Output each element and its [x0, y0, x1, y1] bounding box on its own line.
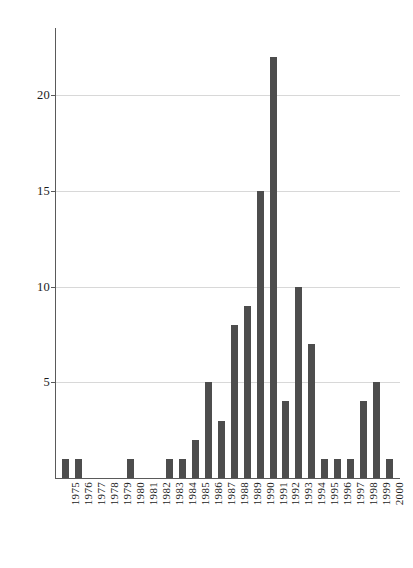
y-tick-label-10: 10: [4, 281, 50, 294]
bar-1997: [347, 459, 354, 478]
x-tick-label-1995: 1995: [329, 482, 340, 505]
bar-chart: 5101520 19751976197719781979198019811982…: [0, 0, 413, 568]
x-tick-label-1998: 1998: [368, 482, 379, 505]
bar-1976: [75, 459, 82, 478]
bar-1998: [360, 401, 367, 478]
bar-1986: [205, 382, 212, 478]
bar-1995: [321, 459, 328, 478]
bar-1988: [231, 325, 238, 478]
x-tick-label-1977: 1977: [96, 482, 107, 505]
x-tick-label-1993: 1993: [303, 482, 314, 505]
x-tick-label-1982: 1982: [161, 482, 172, 505]
x-tick-label-1988: 1988: [239, 482, 250, 505]
bar-1999: [373, 382, 380, 478]
x-tick-label-1987: 1987: [226, 482, 237, 505]
x-tick-label-1978: 1978: [109, 482, 120, 505]
bars-layer: [56, 0, 400, 479]
bar-2000: [386, 459, 393, 478]
bar-1991: [270, 57, 277, 478]
x-tick-label-1990: 1990: [265, 482, 276, 505]
x-tick-label-1999: 1999: [381, 482, 392, 505]
bar-1989: [244, 306, 251, 478]
bar-1992: [282, 401, 289, 478]
x-tick-label-1989: 1989: [252, 482, 263, 505]
x-axis-tick-labels: 1975197619771978197919801981198219831984…: [56, 482, 400, 568]
x-tick-label-1980: 1980: [135, 482, 146, 505]
bar-1985: [192, 440, 199, 478]
x-tick-label-1981: 1981: [148, 482, 159, 505]
x-tick-label-1994: 1994: [316, 482, 327, 505]
y-axis-tick-labels: 5101520: [0, 0, 50, 568]
x-tick-label-1975: 1975: [70, 482, 81, 505]
x-tick-label-1984: 1984: [187, 482, 198, 505]
bar-1990: [257, 191, 264, 478]
x-tick-label-2000: 2000: [394, 482, 405, 505]
bar-1984: [179, 459, 186, 478]
bar-1980: [127, 459, 134, 478]
x-tick-label-1991: 1991: [278, 482, 289, 505]
bar-1994: [308, 344, 315, 478]
bar-1975: [62, 459, 69, 478]
y-tick-label-15: 15: [4, 185, 50, 198]
x-tick-label-1985: 1985: [200, 482, 211, 505]
x-tick-label-1976: 1976: [83, 482, 94, 505]
x-tick-label-1986: 1986: [213, 482, 224, 505]
bar-1987: [218, 421, 225, 478]
y-tick-label-20: 20: [4, 89, 50, 102]
x-tick-label-1983: 1983: [174, 482, 185, 505]
bar-1983: [166, 459, 173, 478]
x-tick-label-1979: 1979: [122, 482, 133, 505]
bar-1996: [334, 459, 341, 478]
y-tick-label-5: 5: [4, 376, 50, 389]
x-tick-label-1992: 1992: [290, 482, 301, 505]
x-tick-label-1996: 1996: [342, 482, 353, 505]
x-tick-label-1997: 1997: [355, 482, 366, 505]
bar-1993: [295, 287, 302, 479]
